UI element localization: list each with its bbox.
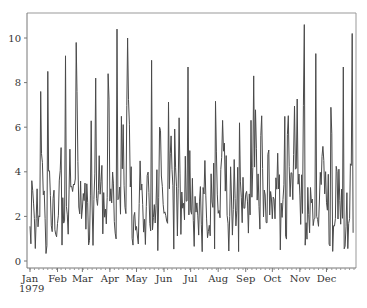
x-tick-label: Jun	[155, 273, 173, 284]
x-axis-ticks: JanFebMarAprMayJunJulAugSepOctNovDec	[21, 268, 354, 284]
y-tick-label: 4	[15, 166, 21, 177]
x-axis-year-label: 1979	[19, 283, 44, 294]
y-tick-label: 8	[15, 77, 21, 88]
x-tick-label: Aug	[207, 273, 229, 284]
x-tick-label: Nov	[290, 273, 311, 284]
y-tick-label: 10	[8, 33, 21, 44]
data-series-line	[30, 25, 353, 254]
x-tick-label: Apr	[100, 273, 120, 284]
y-tick-label: 0	[15, 256, 21, 267]
x-tick-label: Dec	[317, 273, 337, 284]
x-tick-label: Mar	[72, 273, 93, 284]
y-axis-ticks: 0246810	[8, 33, 27, 267]
x-tick-label: May	[126, 273, 148, 284]
x-tick-label: Sep	[236, 273, 255, 284]
y-tick-label: 6	[15, 122, 21, 133]
x-tick-label: Jul	[183, 273, 198, 284]
time-series-chart: 0246810 JanFebMarAprMayJunJulAugSepOctNo…	[0, 0, 367, 308]
x-tick-label: Oct	[263, 273, 281, 284]
y-tick-label: 2	[15, 211, 21, 222]
x-tick-label: Feb	[48, 273, 67, 284]
